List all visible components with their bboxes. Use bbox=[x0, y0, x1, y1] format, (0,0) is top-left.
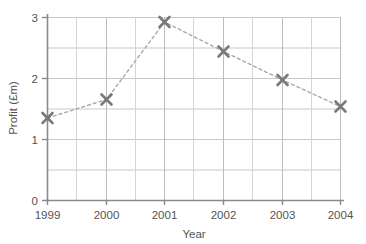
x-tick-label-2003: 2003 bbox=[270, 209, 296, 221]
y-tick-label-1: 1 bbox=[32, 134, 38, 146]
y-axis-ticks bbox=[42, 18, 47, 201]
x-tick-label-2002: 2002 bbox=[211, 209, 237, 221]
y-tick-label-2: 2 bbox=[32, 73, 38, 85]
x-tick-label-2001: 2001 bbox=[152, 209, 178, 221]
chart-canvas: 3 2 1 0 1999 2000 2001 2002 2003 2004 Ye… bbox=[0, 0, 366, 244]
x-axis-title: Year bbox=[182, 228, 205, 240]
profit-line-chart: 3 2 1 0 1999 2000 2001 2002 2003 2004 Ye… bbox=[0, 0, 366, 244]
y-tick-label-0: 0 bbox=[32, 195, 38, 207]
x-tick-label-2004: 2004 bbox=[328, 209, 354, 221]
x-tick-label-1999: 1999 bbox=[35, 209, 61, 221]
y-tick-label-3: 3 bbox=[32, 12, 38, 24]
x-tick-label-2000: 2000 bbox=[94, 209, 120, 221]
y-axis-title: Profit (£m) bbox=[7, 81, 19, 135]
